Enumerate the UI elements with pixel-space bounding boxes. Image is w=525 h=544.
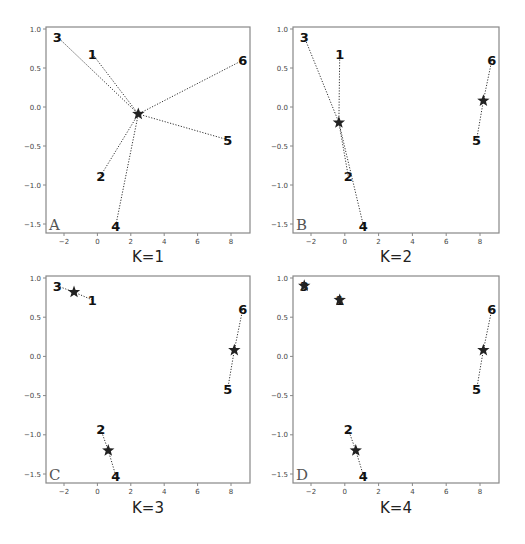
y-tick-label: 0.5 (277, 314, 288, 322)
y-tick-label: −1.0 (271, 431, 288, 439)
y-tick-label: −0.5 (24, 143, 41, 151)
x-tick-label: 0 (343, 238, 347, 246)
point-label-4: 4 (111, 219, 120, 234)
x-tick-label: 4 (410, 238, 415, 246)
point-label-6: 6 (238, 302, 247, 317)
x-tick-label: 0 (343, 488, 347, 496)
y-tick-label: −1.5 (271, 221, 288, 229)
y-tick-label: 0.5 (30, 314, 41, 322)
y-tick-label: −1.5 (24, 221, 41, 229)
point-label-6: 6 (238, 53, 247, 68)
point-label-6: 6 (487, 53, 496, 68)
point-label-5: 5 (472, 382, 481, 397)
plot-c: −202468−1.5−1.0−0.50.00.51.0123456CK=3 (24, 275, 250, 518)
x-tick-label: 2 (376, 238, 380, 246)
x-tick-label: 6 (195, 488, 200, 496)
x-tick-label: −2 (59, 488, 69, 496)
y-tick-label: −0.5 (24, 392, 41, 400)
y-tick-label: 0.0 (30, 104, 41, 112)
point-label-4: 4 (111, 469, 120, 484)
x-tick-label: 8 (478, 238, 482, 246)
k-label: K=2 (380, 248, 412, 266)
x-tick-label: 2 (129, 238, 133, 246)
panel-letter: B (296, 216, 307, 234)
y-tick-label: 1.0 (30, 275, 41, 283)
point-label-2: 2 (344, 169, 353, 184)
x-tick-label: 6 (195, 238, 200, 246)
point-label-6: 6 (487, 302, 496, 317)
x-tick-label: −2 (306, 488, 316, 496)
y-tick-label: −1.0 (271, 182, 288, 190)
x-tick-label: 6 (444, 238, 449, 246)
x-tick-label: 6 (444, 488, 449, 496)
y-tick-label: −1.5 (271, 471, 288, 479)
point-label-5: 5 (223, 133, 232, 148)
x-tick-label: 2 (129, 488, 133, 496)
axes-frame (46, 276, 250, 483)
x-tick-label: 8 (478, 488, 482, 496)
point-label-4: 4 (359, 219, 368, 234)
point-label-1: 1 (88, 293, 97, 308)
panel-letter: D (296, 466, 308, 484)
point-label-3: 3 (300, 30, 309, 45)
plot-b: −202468−1.5−1.0−0.50.00.51.0123456BK=2 (271, 26, 499, 267)
point-label-5: 5 (223, 382, 232, 397)
x-tick-label: 8 (229, 238, 233, 246)
k-label: K=1 (132, 248, 164, 266)
x-tick-label: 4 (162, 238, 167, 246)
x-tick-label: 8 (229, 488, 233, 496)
y-tick-label: 1.0 (30, 26, 41, 34)
point-label-5: 5 (472, 133, 481, 148)
y-tick-label: 0.0 (277, 104, 288, 112)
x-tick-label: 0 (95, 238, 99, 246)
y-tick-label: −1.0 (24, 431, 41, 439)
k-label: K=3 (132, 499, 164, 517)
x-tick-label: −2 (59, 238, 69, 246)
point-label-2: 2 (344, 422, 353, 437)
figure-canvas: −202468−1.5−1.0−0.50.00.51.0123456AK=1−2… (0, 0, 525, 544)
plot-d: −202468−1.5−1.0−0.50.00.51.0123456DK=4 (271, 275, 499, 518)
point-label-1: 1 (88, 47, 97, 62)
y-tick-label: 1.0 (277, 26, 288, 34)
k-means-figure: −202468−1.5−1.0−0.50.00.51.0123456AK=1−2… (0, 0, 525, 544)
axes-frame (293, 27, 499, 233)
y-tick-label: 0.5 (277, 65, 288, 73)
axes-frame (46, 27, 250, 233)
y-tick-label: −1.0 (24, 182, 41, 190)
panel-letter: C (49, 466, 60, 484)
plot-a: −202468−1.5−1.0−0.50.00.51.0123456AK=1 (24, 26, 250, 267)
panel-letter: A (48, 216, 60, 234)
x-tick-label: 0 (95, 488, 99, 496)
x-tick-label: 2 (376, 488, 380, 496)
axes-frame (293, 276, 499, 483)
k-label: K=4 (380, 499, 412, 517)
y-tick-label: −0.5 (271, 143, 288, 151)
y-tick-label: 0.0 (30, 353, 41, 361)
point-label-3: 3 (53, 30, 62, 45)
y-tick-label: −1.5 (24, 471, 41, 479)
y-tick-label: −0.5 (271, 392, 288, 400)
y-tick-label: 0.5 (30, 65, 41, 73)
y-tick-label: 1.0 (277, 275, 288, 283)
point-label-4: 4 (359, 469, 368, 484)
point-label-3: 3 (53, 279, 62, 294)
y-tick-label: 0.0 (277, 353, 288, 361)
point-label-1: 1 (335, 47, 344, 62)
x-tick-label: 4 (410, 488, 415, 496)
point-label-2: 2 (96, 169, 105, 184)
point-label-2: 2 (96, 422, 105, 437)
x-tick-label: 4 (162, 488, 167, 496)
x-tick-label: −2 (306, 238, 316, 246)
